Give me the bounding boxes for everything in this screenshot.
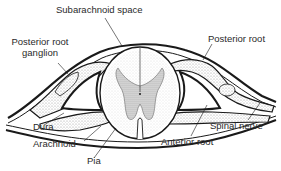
label-posterior-root-ganglion-line1: Posterior root	[2, 36, 78, 47]
label-posterior-root-ganglion: Posterior root ganglion	[2, 36, 78, 58]
label-subarachnoid-space: Subarachnoid space	[56, 4, 143, 15]
label-posterior-root: Posterior root	[208, 33, 265, 44]
label-arachnoid: Arachnoid	[33, 138, 76, 149]
label-spinal-nerve: Spinal nerve	[210, 120, 263, 131]
label-anterior-root: Anterior root	[161, 136, 213, 147]
label-pia: Pia	[87, 155, 101, 166]
label-dura: Dura	[33, 121, 54, 132]
label-posterior-root-ganglion-line2: ganglion	[2, 47, 78, 58]
spinal-cord	[100, 47, 180, 139]
